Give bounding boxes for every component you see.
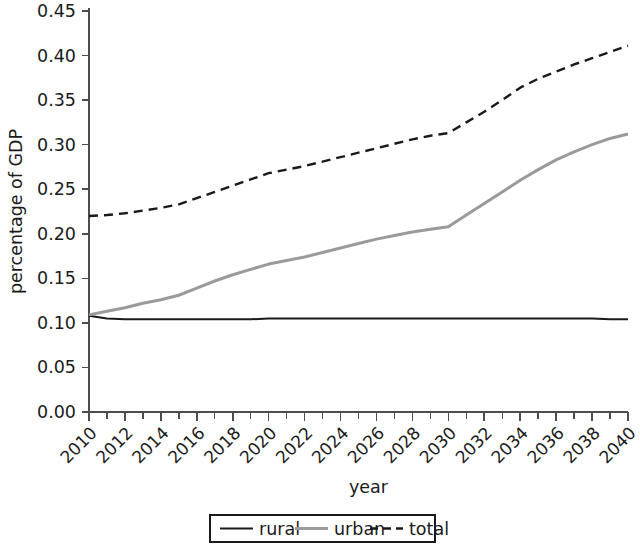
y-tick-label: 0.40 (37, 46, 76, 66)
chart-figure: 0.000.050.100.150.200.250.300.350.400.45… (0, 0, 640, 545)
x-tick-label: 2026 (344, 423, 389, 468)
x-tick-label: 2022 (272, 423, 317, 468)
x-tick-label: 2038 (559, 423, 604, 468)
y-axis-ticks: 0.000.050.100.150.200.250.300.350.400.45 (37, 1, 89, 422)
y-tick-label: 0.05 (37, 357, 76, 377)
x-tick-label: 2016 (164, 423, 209, 468)
data-series-group (89, 46, 628, 320)
series-line-rural (89, 316, 628, 320)
x-tick-label: 2010 (56, 423, 101, 468)
x-axis-title: year (349, 477, 389, 497)
y-axis-title: percentage of GDP (6, 129, 26, 294)
legend-label-total: total (409, 519, 449, 539)
legend-label-rural: rural (259, 519, 300, 539)
x-tick-label: 2030 (415, 423, 460, 468)
x-tick-label: 2034 (487, 423, 532, 468)
x-tick-label: 2040 (595, 423, 640, 468)
y-tick-label: 0.30 (37, 135, 76, 155)
y-tick-label: 0.25 (37, 179, 76, 199)
series-line-urban (89, 134, 628, 315)
y-tick-label: 0.20 (37, 224, 76, 244)
chart-legend: ruralurbantotal (210, 515, 449, 542)
x-tick-label: 2036 (523, 423, 568, 468)
y-tick-label: 0.00 (37, 402, 76, 422)
y-tick-label: 0.45 (37, 1, 76, 21)
x-tick-label: 2020 (236, 423, 281, 468)
x-tick-label: 2024 (308, 423, 353, 468)
x-tick-label: 2032 (451, 423, 496, 468)
x-tick-label: 2014 (128, 423, 173, 468)
y-tick-label: 0.15 (37, 268, 76, 288)
x-axis-ticks: 2010201220142016201820202022202420262028… (56, 412, 640, 467)
series-line-total (89, 46, 628, 216)
line-chart: 0.000.050.100.150.200.250.300.350.400.45… (0, 0, 640, 545)
y-tick-label: 0.35 (37, 90, 76, 110)
x-tick-label: 2012 (92, 423, 137, 468)
x-tick-label: 2028 (379, 423, 424, 468)
y-tick-label: 0.10 (37, 313, 76, 333)
x-tick-label: 2018 (200, 423, 245, 468)
